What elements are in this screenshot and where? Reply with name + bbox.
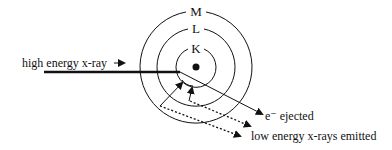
emitted-label: low energy x-rays emitted — [251, 129, 376, 143]
shell-label-l: L — [192, 21, 200, 36]
shell-label-m: M — [190, 4, 202, 19]
shell-label-k: K — [191, 41, 201, 56]
xray-shell-diagram: M L K high energy x-ray e⁻ ejected low e… — [0, 0, 392, 150]
emitted-xray-2 — [160, 106, 240, 136]
ejected-label: e⁻ ejected — [265, 109, 314, 123]
nucleus-dot — [193, 64, 200, 71]
emitted-xray-1 — [190, 101, 250, 126]
incident-label: high energy x-ray — [22, 56, 107, 70]
ejected-electron-line — [180, 72, 262, 114]
transition-l-to-k-arrow — [189, 88, 192, 101]
